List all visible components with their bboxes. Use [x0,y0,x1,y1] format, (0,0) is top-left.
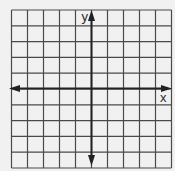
axes [9,10,172,166]
y-axis-down-arrow-icon [88,155,95,166]
x-axis-label: x [160,90,167,105]
y-axis-label: y [82,9,89,24]
x-axis-left-arrow-icon [9,85,20,92]
y-axis-up-arrow-icon [88,10,95,21]
coordinate-plane: x y [0,0,175,171]
